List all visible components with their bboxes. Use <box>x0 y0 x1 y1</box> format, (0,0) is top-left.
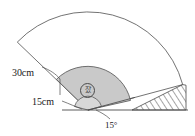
geometry-figure: 30cm 15cm 15° 잤 <box>0 0 195 136</box>
region-marker-circled-glyph: 잤 <box>80 83 95 98</box>
label-inner-radius: 15cm <box>32 97 54 107</box>
label-outer-radius: 30cm <box>12 68 34 78</box>
label-rotation-angle: 15° <box>105 121 117 130</box>
leader-line-angle <box>96 110 110 119</box>
